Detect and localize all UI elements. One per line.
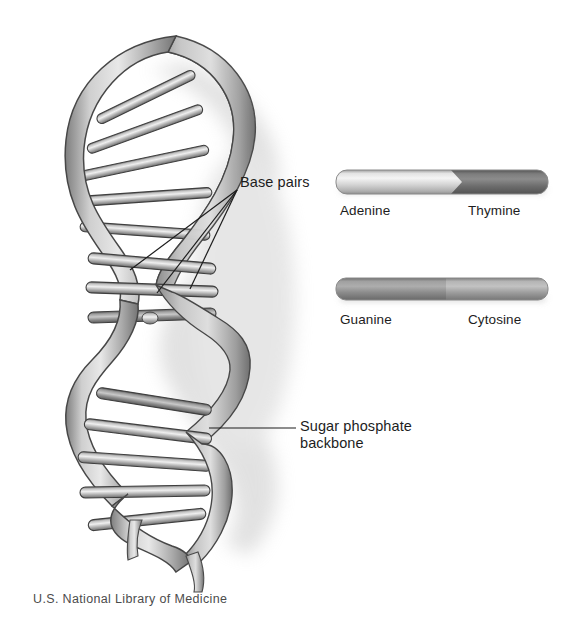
legend-label-cytosine: Cytosine bbox=[468, 312, 521, 327]
annotation-sugar-phosphate-backbone: Sugar phosphatebackbone bbox=[300, 418, 412, 452]
figure-credit: U.S. National Library of Medicine bbox=[33, 592, 227, 606]
legend-label-thymine: Thymine bbox=[468, 203, 520, 218]
helix-nub bbox=[142, 312, 158, 324]
helix-rungs-lower bbox=[78, 387, 212, 531]
legend-label-guanine: Guanine bbox=[340, 312, 392, 327]
helix-strand-front-3 bbox=[111, 494, 190, 572]
annotation-sugar-line-1: Sugar phosphate bbox=[300, 418, 412, 434]
legend-label-adenine: Adenine bbox=[340, 203, 390, 218]
legend-bar-guanine-cytosine bbox=[336, 278, 548, 302]
annotation-base-pairs: Base pairs bbox=[240, 174, 310, 190]
legend-bar-adenine-thymine bbox=[336, 170, 548, 194]
annotation-sugar-line-2: backbone bbox=[300, 435, 364, 451]
